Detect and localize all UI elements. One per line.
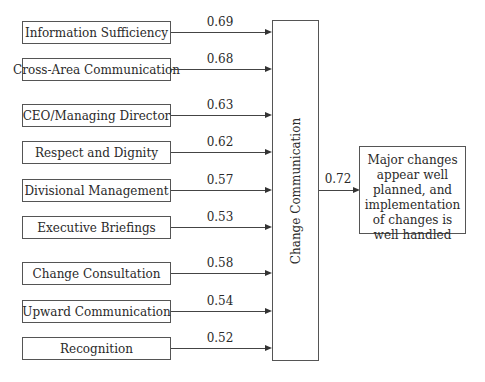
predictor-label: Upward Communication [22, 305, 170, 319]
predictor-coefficient: 0.63 [200, 98, 240, 112]
predictor-coefficient: 0.53 [200, 210, 240, 224]
arrowhead-icon [265, 345, 272, 351]
predictor-label: Information Sufficiency [25, 26, 168, 40]
arrowhead-icon [265, 187, 272, 193]
arrowhead-icon [265, 270, 272, 276]
outcome-coefficient: 0.72 [318, 172, 358, 186]
arrowhead-icon [265, 112, 272, 118]
predictor-arrow-line [171, 69, 265, 70]
arrowhead-icon [265, 224, 272, 230]
predictor-box: Respect and Dignity [22, 141, 171, 164]
change-communication-box: Change Communication [272, 20, 319, 361]
arrowhead-icon [265, 308, 272, 314]
predictor-box: Information Sufficiency [22, 21, 171, 44]
predictor-label: Executive Briefings [37, 221, 156, 235]
predictor-coefficient: 0.54 [200, 294, 240, 308]
predictor-coefficient: 0.69 [200, 15, 240, 29]
arrowhead-icon [265, 66, 272, 72]
predictor-coefficient: 0.62 [200, 135, 240, 149]
outcome-line-5: of changes is [360, 213, 465, 228]
arrowhead-icon [265, 149, 272, 155]
predictor-label: CEO/Managing Director [23, 109, 171, 123]
predictor-label: Respect and Dignity [35, 146, 158, 160]
predictor-label: Divisional Management [25, 184, 169, 198]
predictor-box: Divisional Management [22, 179, 171, 202]
predictor-label: Cross-Area Communication [13, 63, 180, 77]
outcome-line-3: planned, and [360, 183, 465, 198]
predictor-box: Upward Communication [22, 300, 171, 323]
predictor-arrow-line [171, 32, 265, 33]
predictor-arrow-line [171, 115, 265, 116]
predictor-label: Change Consultation [33, 267, 161, 281]
change-communication-label: Change Communication [289, 117, 303, 263]
predictor-arrow-line [171, 227, 265, 228]
predictor-label: Recognition [60, 342, 133, 356]
arrowhead-icon [265, 29, 272, 35]
predictor-box: CEO/Managing Director [22, 104, 171, 127]
predictor-arrow-line [171, 273, 265, 274]
outcome-arrow-line [319, 190, 353, 191]
outcome-box: Major changes appear well planned, and i… [359, 146, 466, 234]
predictor-box: Recognition [22, 337, 171, 360]
predictor-coefficient: 0.58 [200, 256, 240, 270]
predictor-coefficient: 0.57 [200, 173, 240, 187]
predictor-arrow-line [171, 190, 265, 191]
predictor-coefficient: 0.52 [200, 331, 240, 345]
predictor-arrow-line [171, 311, 265, 312]
predictor-box: Cross-Area Communication [22, 58, 171, 81]
predictor-arrow-line [171, 152, 265, 153]
predictor-box: Change Consultation [22, 262, 171, 285]
outcome-line-2: appear well [360, 168, 465, 183]
outcome-line-4: implementation [360, 198, 465, 213]
predictor-arrow-line [171, 348, 265, 349]
outcome-line-1: Major changes [360, 153, 465, 168]
outcome-line-6: well handled [360, 228, 465, 243]
predictor-coefficient: 0.68 [200, 52, 240, 66]
predictor-box: Executive Briefings [22, 216, 171, 239]
